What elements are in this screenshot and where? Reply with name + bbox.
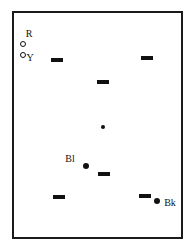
- open-circle-marker-y: [20, 52, 26, 58]
- small-dot-marker-center: [101, 125, 105, 129]
- filled-dot-marker-bk: [154, 198, 160, 204]
- dash-marker-top-left: [51, 58, 63, 62]
- label-bl: Bl: [65, 154, 74, 164]
- plot-frame: R Y Bl Bk: [12, 11, 183, 239]
- dash-marker-bottom-left: [53, 195, 65, 199]
- label-bk: Bk: [164, 198, 176, 208]
- open-circle-marker-r: [20, 41, 26, 47]
- filled-dot-marker-bl: [83, 163, 89, 169]
- label-r: R: [26, 29, 33, 39]
- dash-marker-top-right: [141, 56, 153, 60]
- plot-area: R Y Bl Bk: [14, 13, 181, 237]
- dash-marker-bottom-right: [139, 194, 151, 198]
- dash-marker-mid-center: [97, 80, 109, 84]
- figure-container: R Y Bl Bk: [0, 0, 196, 250]
- label-y: Y: [26, 53, 33, 63]
- dash-marker-lower-center: [98, 172, 110, 176]
